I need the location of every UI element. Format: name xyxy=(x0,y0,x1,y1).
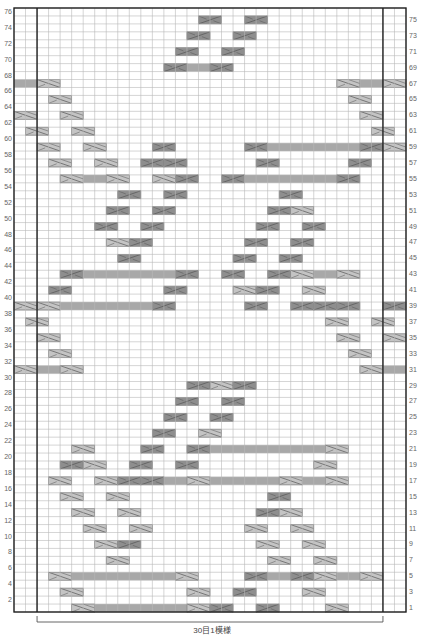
row-label: 65 xyxy=(409,95,417,102)
row-label: 64 xyxy=(0,103,12,110)
row-label: 48 xyxy=(0,231,12,238)
row-label: 31 xyxy=(409,366,417,373)
row-label: 46 xyxy=(0,246,12,253)
row-label: 49 xyxy=(409,223,417,230)
row-label: 28 xyxy=(0,389,12,396)
row-label: 54 xyxy=(0,183,12,190)
row-label: 21 xyxy=(409,445,417,452)
row-label: 20 xyxy=(0,453,12,460)
row-label: 63 xyxy=(409,111,417,118)
row-label: 18 xyxy=(0,469,12,476)
row-label: 56 xyxy=(0,167,12,174)
row-label: 45 xyxy=(409,254,417,261)
repeat-caption: 30目1模様 xyxy=(0,624,424,635)
row-label: 30 xyxy=(0,374,12,381)
row-label: 13 xyxy=(409,509,417,516)
row-label: 34 xyxy=(0,342,12,349)
row-label: 75 xyxy=(409,16,417,23)
row-label: 66 xyxy=(0,87,12,94)
row-label: 3 xyxy=(409,588,413,595)
row-label: 1 xyxy=(409,604,413,611)
row-label: 60 xyxy=(0,135,12,142)
row-label: 14 xyxy=(0,501,12,508)
row-label: 33 xyxy=(409,350,417,357)
row-label: 62 xyxy=(0,119,12,126)
row-label: 53 xyxy=(409,191,417,198)
shaded-band xyxy=(72,572,176,580)
row-label: 8 xyxy=(0,548,12,555)
row-label: 6 xyxy=(0,564,12,571)
row-label: 36 xyxy=(0,326,12,333)
row-label: 70 xyxy=(0,56,12,63)
row-label: 42 xyxy=(0,278,12,285)
row-label: 68 xyxy=(0,72,12,79)
row-label: 69 xyxy=(409,64,417,71)
row-label: 39 xyxy=(409,302,417,309)
row-label: 9 xyxy=(409,540,413,547)
row-label: 44 xyxy=(0,262,12,269)
row-label: 7 xyxy=(409,556,413,563)
row-label: 58 xyxy=(0,151,12,158)
row-label: 37 xyxy=(409,318,417,325)
row-label: 59 xyxy=(409,143,417,150)
row-label: 73 xyxy=(409,32,417,39)
row-label: 23 xyxy=(409,429,417,436)
row-label: 2 xyxy=(0,596,12,603)
row-label: 24 xyxy=(0,421,12,428)
row-label: 10 xyxy=(0,533,12,540)
row-label: 41 xyxy=(409,286,417,293)
row-label: 22 xyxy=(0,437,12,444)
row-label: 4 xyxy=(0,580,12,587)
row-label: 50 xyxy=(0,215,12,222)
row-label: 52 xyxy=(0,199,12,206)
row-label: 38 xyxy=(0,310,12,317)
row-label: 27 xyxy=(409,397,417,404)
row-label: 32 xyxy=(0,358,12,365)
row-label: 57 xyxy=(409,159,417,166)
row-label: 67 xyxy=(409,80,417,87)
row-label: 16 xyxy=(0,485,12,492)
row-label: 15 xyxy=(409,493,417,500)
row-label: 12 xyxy=(0,517,12,524)
row-label: 72 xyxy=(0,40,12,47)
row-label: 19 xyxy=(409,461,417,468)
row-label: 40 xyxy=(0,294,12,301)
row-label: 74 xyxy=(0,24,12,31)
row-label: 26 xyxy=(0,405,12,412)
row-label: 25 xyxy=(409,413,417,420)
row-label: 71 xyxy=(409,48,417,55)
row-label: 29 xyxy=(409,382,417,389)
repeat-bracket xyxy=(37,616,383,622)
row-label: 61 xyxy=(409,127,417,134)
row-label: 5 xyxy=(409,572,413,579)
row-label: 11 xyxy=(409,525,416,532)
row-label: 51 xyxy=(409,207,417,214)
row-label: 43 xyxy=(409,270,417,277)
row-label: 35 xyxy=(409,334,417,341)
row-label: 17 xyxy=(409,477,417,484)
row-label: 47 xyxy=(409,238,417,245)
row-label: 55 xyxy=(409,175,417,182)
chart-grid xyxy=(14,8,406,612)
row-label: 76 xyxy=(0,8,12,15)
